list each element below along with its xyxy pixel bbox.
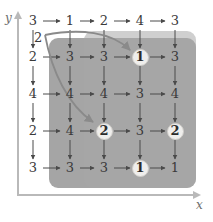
grid-cell-circled: 1: [129, 48, 151, 66]
grid-cell: 4: [164, 85, 186, 103]
grid-cell: 4: [59, 122, 81, 140]
grid-cell-circled: 1: [129, 159, 151, 177]
grid-cell: 3: [129, 122, 151, 140]
grid-cell: 3: [22, 12, 44, 30]
grid-cell: 4: [22, 85, 44, 103]
grid-cell: 1: [164, 159, 186, 177]
grid-cell: 3: [59, 48, 81, 66]
grid-cell: 2: [22, 48, 44, 66]
grid-cells: 3124323313444342423233311: [0, 0, 213, 222]
grid-cell: 3: [164, 48, 186, 66]
grid-cell: 3: [129, 85, 151, 103]
grid-cell: 3: [93, 159, 115, 177]
grid-cell: 4: [93, 85, 115, 103]
grid-cell: 2: [93, 12, 115, 30]
grid-cell: 3: [22, 159, 44, 177]
grid-diagram-figure: y x 3124323313444342423233311 2: [0, 0, 213, 222]
grid-cell: 2: [22, 122, 44, 140]
grid-cell: 3: [164, 12, 186, 30]
curve-source-label: 2: [34, 31, 42, 44]
grid-cell: 4: [129, 12, 151, 30]
grid-cell: 3: [59, 159, 81, 177]
grid-cell: 3: [93, 48, 115, 66]
grid-cell: 1: [59, 12, 81, 30]
grid-cell-circled: 2: [93, 122, 115, 140]
grid-cell-circled: 2: [164, 122, 186, 140]
grid-cell: 4: [59, 85, 81, 103]
